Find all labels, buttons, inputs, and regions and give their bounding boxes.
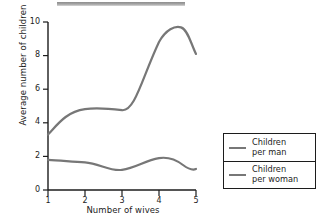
line-chart: 10 8 6 4 2 0 1 2 3 4 5 Average number of… [0,0,215,220]
x-tick-label-4: 4 [152,196,166,205]
x-tick-label-3: 3 [115,196,129,205]
legend-item-children-per-woman[interactable]: Children per woman [224,161,315,188]
y-axis-ticks [43,22,48,190]
legend-item-label: Children per woman [252,165,298,184]
series-line-children-per-man [48,27,196,135]
legend-item-children-per-man[interactable]: Children per man [224,134,315,161]
x-tick-label-5: 5 [189,196,203,205]
x-tick-label-2: 2 [78,196,92,205]
series-line-children-per-woman [48,158,196,170]
chart-legend: Children per man Children per woman [223,133,316,189]
y-axis-title: Average number of children [18,0,28,140]
x-axis-title: Number of wives [48,205,198,215]
y-tick-label-0: 0 [24,185,40,194]
legend-line-swatch-icon [229,174,246,176]
legend-line-swatch-icon [229,147,246,149]
chart-page: 10 8 6 4 2 0 1 2 3 4 5 Average number of… [0,0,326,220]
y-tick-label-2: 2 [24,151,40,160]
x-tick-label-1: 1 [41,196,55,205]
legend-item-label: Children per man [252,138,286,157]
